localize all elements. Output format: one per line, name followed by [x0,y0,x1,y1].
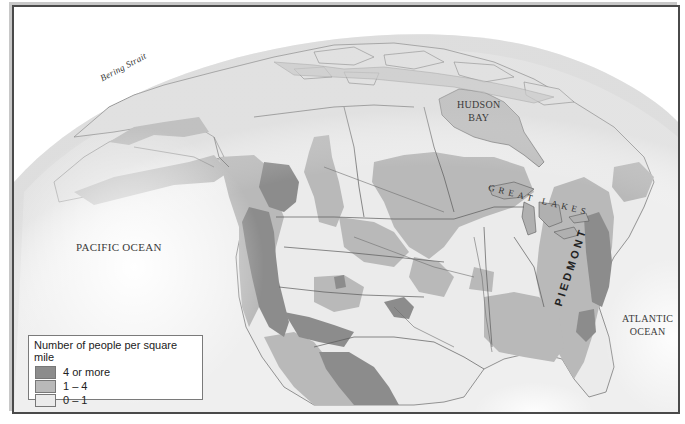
legend-title: Number of people per square mile [34,339,197,363]
map-legend: Number of people per square mile 4 or mo… [28,335,203,400]
legend-swatch-low [35,394,56,407]
map-frame: Bering Strait HUDSON BAY PACIFIC OCEAN A… [12,5,680,414]
legend-label-low: 0 – 1 [63,394,87,406]
legend-label-high: 4 or more [63,366,110,378]
legend-item-low: 0 – 1 [34,393,197,407]
legend-item-high: 4 or more [34,365,197,379]
legend-label-medium: 1 – 4 [63,380,87,392]
label-pacific-ocean: PACIFIC OCEAN [76,241,162,253]
legend-swatch-medium [35,380,56,393]
legend-swatch-high [35,366,56,379]
label-hudson-bay: HUDSON BAY [457,98,500,124]
legend-item-medium: 1 – 4 [34,379,197,393]
label-atlantic-ocean: ATLANTIC OCEAN [622,312,673,338]
